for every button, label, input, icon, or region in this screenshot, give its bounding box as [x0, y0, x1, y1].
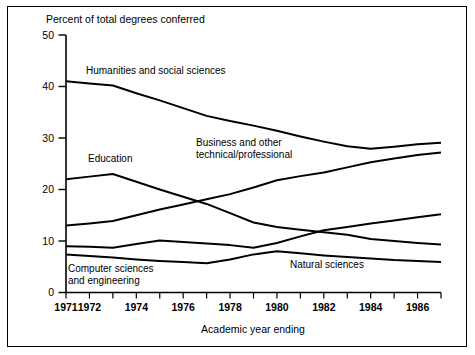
annotation-compsci-line2: and engineering [68, 275, 140, 286]
x-tick-label-1974: 1974 [125, 301, 149, 313]
y-tick-label-0: 0 [48, 286, 54, 298]
annotation-compsci-line1: Computer sciences [68, 263, 154, 274]
x-tick-label-1984: 1984 [359, 301, 383, 313]
y-tick-label-10: 10 [42, 235, 54, 247]
line-chart-plot: Percent of total degrees conferred 50 40… [0, 0, 475, 355]
x-tick-label-1986: 1986 [406, 301, 430, 313]
y-axis-title: Percent of total degrees conferred [46, 13, 205, 25]
annotation-business-line1: Business and other [196, 137, 282, 148]
annotation-education: Education [88, 153, 132, 164]
y-tick-label-50: 50 [42, 29, 54, 41]
x-axis-title: Academic year ending [201, 323, 305, 335]
annotation-natural-sciences: Natural sciences [290, 259, 364, 270]
series-line-2 [66, 174, 441, 245]
series-line-4 [66, 251, 441, 263]
y-tick-label-40: 40 [42, 80, 54, 92]
x-tick-label-1972: 1972 [78, 301, 102, 313]
y-axis-ticks: 50 40 30 20 10 0 [42, 29, 66, 299]
y-tick-label-20: 20 [42, 183, 54, 195]
y-tick-label-30: 30 [42, 132, 54, 144]
series-lines [66, 81, 441, 263]
x-axis-tick-labels: 197119721974197619781980198219841986 [54, 301, 429, 313]
x-tick-label-1980: 1980 [265, 301, 289, 313]
x-tick-label-1971: 1971 [54, 301, 78, 313]
x-axis-ticks [66, 293, 441, 299]
annotation-business-line2: technical/professional [196, 149, 292, 160]
x-tick-label-1976: 1976 [172, 301, 196, 313]
x-tick-label-1978: 1978 [218, 301, 242, 313]
chart-figure: Percent of total degrees conferred 50 40… [0, 0, 475, 355]
x-tick-label-1982: 1982 [312, 301, 336, 313]
annotation-humanities: Humanities and social sciences [86, 65, 226, 76]
